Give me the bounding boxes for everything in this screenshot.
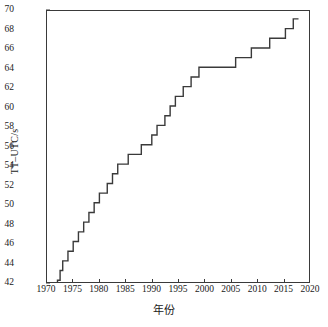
x-tick-label: 1990	[142, 285, 161, 295]
y-tick-label: 60	[5, 103, 15, 113]
y-tick-label: 56	[5, 142, 15, 152]
y-tick-label: 54	[5, 161, 15, 171]
y-tick-label: 48	[5, 220, 15, 230]
y-tick-label: 44	[5, 259, 15, 269]
x-tick-label: 2010	[248, 285, 267, 295]
x-axis-title: 年份	[0, 301, 328, 317]
x-tick-mark	[72, 279, 73, 283]
x-tick-mark	[152, 279, 153, 283]
step-line-series	[47, 11, 309, 282]
x-tick-label: 2020	[301, 285, 320, 295]
x-tick-mark	[284, 279, 285, 283]
x-tick-label: 1970	[37, 285, 56, 295]
y-tick-label: 62	[5, 83, 15, 93]
x-tick-label: 2000	[195, 285, 214, 295]
x-tick-label: 1975	[63, 285, 82, 295]
y-tick-label: 66	[5, 44, 15, 54]
x-tick-mark	[204, 279, 205, 283]
y-tick-label: 70	[5, 5, 15, 15]
x-tick-mark	[231, 279, 232, 283]
y-tick-label: 52	[5, 181, 15, 191]
x-tick-mark	[99, 279, 100, 283]
y-tick-label: 50	[5, 200, 15, 210]
plot-area	[46, 10, 310, 283]
x-tick-label: 2005	[221, 285, 240, 295]
y-tick-label: 46	[5, 239, 15, 249]
x-tick-label: 1995	[169, 285, 188, 295]
y-tick-label: 42	[5, 278, 15, 288]
x-tick-mark	[125, 279, 126, 283]
x-tick-mark	[178, 279, 179, 283]
x-tick-label: 1980	[89, 285, 108, 295]
x-tick-label: 1985	[116, 285, 135, 295]
x-tick-mark	[257, 279, 258, 283]
y-tick-label: 58	[5, 122, 15, 132]
y-tick-label: 64	[5, 64, 15, 74]
x-tick-label: 2015	[274, 285, 293, 295]
y-tick-label: 68	[5, 25, 15, 35]
chart-figure: TT–UTC/s 424446485052545658606264666870 …	[0, 0, 328, 327]
